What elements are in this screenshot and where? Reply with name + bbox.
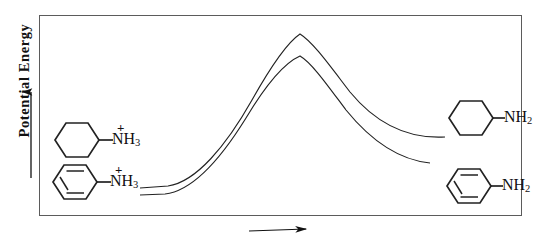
label-aniline: NH2 — [502, 176, 530, 194]
label-cyclohexylamine-sub: 2 — [527, 115, 532, 126]
label-cyclohexylamine-text: NH — [504, 108, 527, 125]
label-cyclohexylammonium-text: NH — [112, 130, 135, 147]
label-cyclohexylamine: NH2 — [504, 108, 532, 126]
label-anilinium: NH3 — [110, 172, 138, 190]
label-aniline-sub: 2 — [525, 183, 530, 194]
label-cyclohexylammonium: NH3 — [112, 130, 140, 148]
label-cyclohexylammonium-sub: 3 — [135, 137, 140, 148]
figure-canvas: Potential Energy — [0, 0, 547, 237]
label-aniline-text: NH — [502, 176, 525, 193]
label-anilinium-sub: 3 — [133, 179, 138, 190]
y-axis-label: Potential Energy — [16, 11, 33, 151]
label-anilinium-text: NH — [110, 172, 133, 189]
x-axis-arrow — [249, 229, 306, 231]
